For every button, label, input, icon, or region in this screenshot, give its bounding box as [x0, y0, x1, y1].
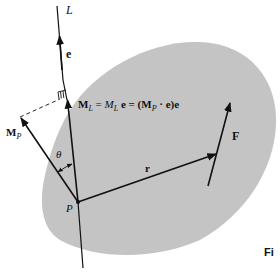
figure-caption: Fi [264, 246, 274, 258]
moment-diagram: L e ML = ML e = (MP · e)e MP θ r F P Fi [0, 0, 280, 272]
eq-tail: · e)e [157, 98, 180, 111]
eq-eq1: = [93, 98, 105, 110]
eq-e1: e = (M [118, 98, 152, 111]
mp-main: M [6, 126, 17, 138]
mp-sub: P [15, 132, 21, 141]
eq-ml: M [78, 98, 89, 110]
projection-dashed-line [20, 99, 60, 117]
unit-vector-label-e: e [66, 47, 72, 61]
angle-label-theta: θ [56, 148, 62, 160]
point-p-dot [76, 200, 80, 204]
moment-p-label: MP [6, 126, 21, 141]
force-label-f: F [232, 129, 239, 143]
unit-vector-e-arrow [60, 36, 63, 70]
position-vector-label-r: r [145, 162, 150, 174]
axis-label-l: L [65, 3, 73, 17]
point-label-p: P [65, 202, 73, 214]
rigid-body-shape [42, 42, 276, 255]
